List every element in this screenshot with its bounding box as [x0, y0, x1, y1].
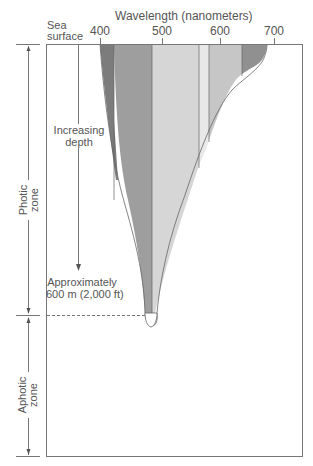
aphotic-zone-label: Aphotic zone: [17, 372, 41, 418]
tick-label-500: 500: [152, 25, 172, 37]
depth-arrowhead-icon: [76, 264, 81, 271]
wavelength-ticks: [101, 38, 275, 44]
light-penetration-diagram: [0, 0, 313, 466]
depth-limit-label: Approximately 600 m (2,000 ft): [46, 276, 118, 300]
chart-title: Wavelength (nanometers): [115, 10, 253, 22]
arrowhead-up-icon: [27, 317, 31, 323]
band-orange: [209, 44, 242, 140]
band-yellow: [199, 44, 209, 165]
wavelength-bands: [100, 44, 267, 327]
arrowhead-down-icon: [27, 449, 31, 455]
photic-zone-label: Photic zone: [18, 180, 42, 220]
arrowhead-up-icon: [27, 46, 31, 51]
tick-label-600: 600: [210, 25, 230, 37]
tick-label-700: 700: [264, 25, 284, 37]
band-green: [152, 44, 199, 313]
arrowhead-down-icon: [27, 308, 31, 314]
sea-surface-label: Sea surface: [47, 20, 83, 42]
increasing-depth-label: Increasing depth: [52, 124, 106, 148]
tick-label-400: 400: [90, 25, 110, 37]
